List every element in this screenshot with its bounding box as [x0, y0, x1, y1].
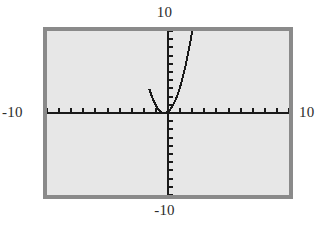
axis-label-left: -10: [2, 105, 42, 120]
axis-label-right: 10: [299, 105, 329, 120]
graph-figure: 10 -10 10 -10: [0, 0, 329, 227]
axis-label-bottom: -10: [0, 203, 329, 218]
axes-group: [47, 31, 289, 195]
plot-area: [47, 31, 289, 195]
axis-label-top: 10: [0, 5, 329, 20]
